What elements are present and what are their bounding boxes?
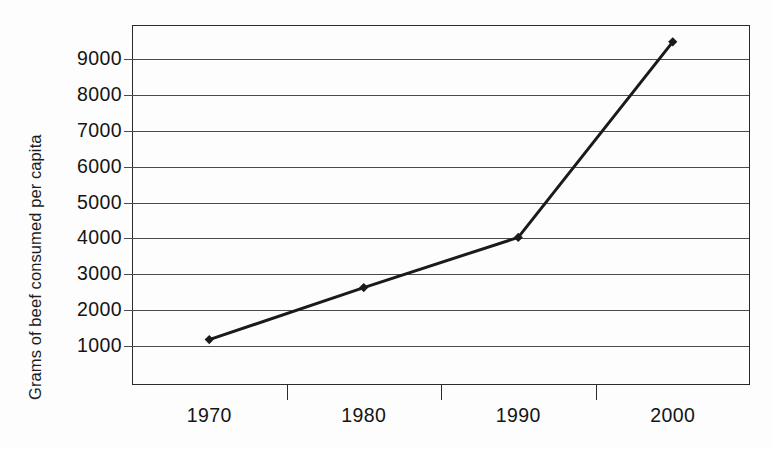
gridline bbox=[133, 131, 749, 132]
y-axis-tick-label: 1000 bbox=[77, 334, 122, 357]
x-axis-tick-mark bbox=[596, 385, 597, 400]
y-axis-tick-label: 6000 bbox=[77, 154, 122, 177]
y-axis-tick-mark bbox=[124, 310, 133, 311]
gridline bbox=[133, 59, 749, 60]
y-axis-tick-mark bbox=[124, 238, 133, 239]
gridline bbox=[133, 346, 749, 347]
gridline bbox=[133, 167, 749, 168]
x-axis-tick-mark bbox=[287, 385, 288, 400]
gridline bbox=[133, 274, 749, 275]
y-axis-tick-mark bbox=[124, 203, 133, 204]
y-axis-tick-label: 7000 bbox=[77, 118, 122, 141]
y-axis-tick-label: 4000 bbox=[77, 226, 122, 249]
y-axis-tick-mark bbox=[124, 274, 133, 275]
gridline bbox=[133, 203, 749, 204]
x-axis-tick-mark bbox=[441, 385, 442, 400]
y-axis-tick-label: 3000 bbox=[77, 262, 122, 285]
y-axis-tick-mark bbox=[124, 59, 133, 60]
plot-area bbox=[132, 25, 750, 385]
x-axis-tick-label: 1970 bbox=[187, 404, 232, 427]
x-axis-tick-label: 1990 bbox=[496, 404, 541, 427]
y-axis-tick-label: 5000 bbox=[77, 190, 122, 213]
y-axis-tick-mark bbox=[124, 95, 133, 96]
y-axis-tick-labels: 100020003000400050006000700080009000 bbox=[42, 25, 122, 385]
gridline bbox=[133, 310, 749, 311]
y-axis-tick-mark bbox=[124, 346, 133, 347]
y-axis-tick-mark bbox=[124, 131, 133, 132]
line-chart: Grams of beef consumed per capita 100020… bbox=[0, 0, 772, 449]
y-axis-tick-label: 8000 bbox=[77, 82, 122, 105]
gridline bbox=[133, 95, 749, 96]
y-axis-tick-label: 2000 bbox=[77, 298, 122, 321]
y-axis-tick-label: 9000 bbox=[77, 47, 122, 70]
x-axis-tick-label: 1980 bbox=[341, 404, 386, 427]
x-axis-tick-label: 2000 bbox=[650, 404, 695, 427]
gridline bbox=[133, 238, 749, 239]
y-axis-tick-mark bbox=[124, 167, 133, 168]
